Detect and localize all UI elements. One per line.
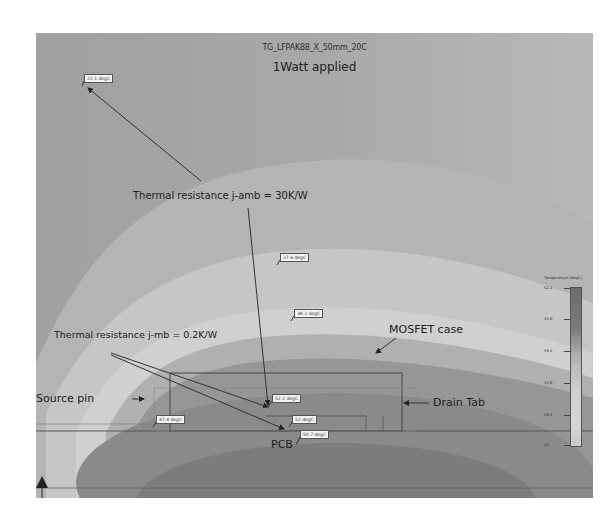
- legend-tick: 39.2: [544, 348, 570, 353]
- annotation-arrows: [36, 33, 593, 498]
- probe-label-mounting-base: 52 degC: [292, 415, 317, 424]
- annotation-rth-j-mb: Thermal resistance j-mb = 0.2K/W: [54, 329, 217, 340]
- legend-tick: 45.8: [544, 316, 570, 321]
- annotation-source-pin: Source pin: [36, 392, 94, 405]
- annotation-rth-j-amb: Thermal resistance j-amb = 30K/W: [133, 190, 308, 201]
- legend-color-bar: [570, 287, 582, 447]
- probe-label-source-pin: 47.4 degC: [156, 415, 185, 424]
- probe-label-pcb: 50.7 degC: [300, 430, 329, 439]
- probe-label-junction: 52.2 degC: [272, 394, 301, 403]
- probe-label-above-case: 38.2 degC: [294, 309, 323, 318]
- legend-tick: 32.6: [544, 380, 570, 385]
- annotation-mosfet-case: MOSFET case: [389, 323, 463, 336]
- annotation-pcb: PCB: [271, 438, 293, 451]
- legend-title: Temperature (degC): [544, 275, 582, 280]
- legend-tick: 52.2: [544, 285, 570, 290]
- annotation-drain-tab: Drain Tab: [433, 396, 485, 409]
- temperature-legend: Temperature (degC) 52.2 45.8 39.2 32.6 2…: [544, 275, 590, 453]
- legend-tick: 26.4: [544, 412, 570, 417]
- thermal-simulation-view: TG_LFPAK88_X_50mm_20C 1Watt applied 22.1…: [36, 33, 593, 498]
- probe-label-ambient-top: 22.1 degC: [84, 74, 113, 83]
- probe-label-mid-air: 27.6 degC: [280, 253, 309, 262]
- legend-tick: 20: [544, 442, 570, 447]
